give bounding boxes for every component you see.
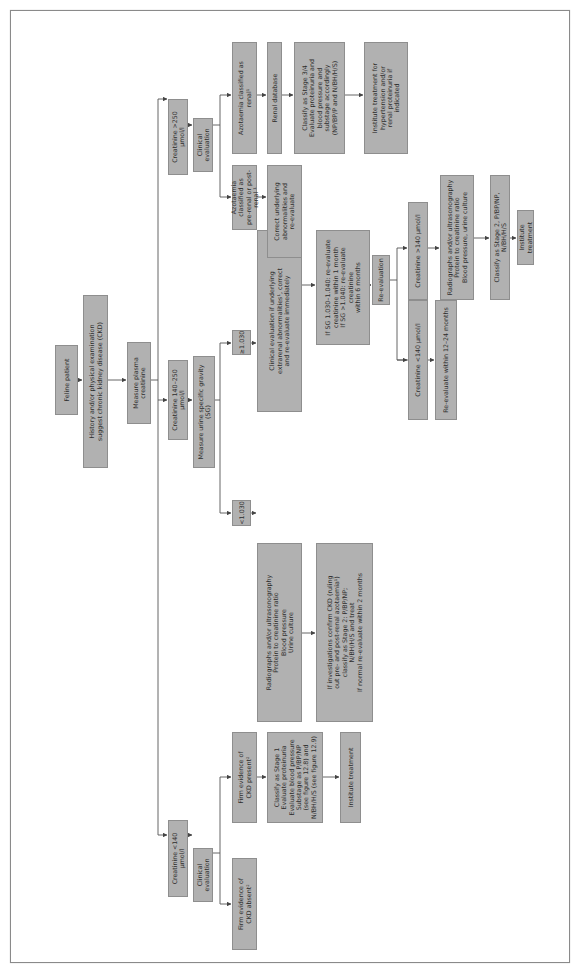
sg-reevaluate-node: If SG 1.030–1.040: re-evaluate creatinin… xyxy=(316,230,370,345)
institute-treatment-stage2-node: Institute treatment xyxy=(517,210,534,265)
history-node: History and/or physical examination sugg… xyxy=(83,295,108,468)
flowchart-connectors xyxy=(0,0,580,975)
azotaemia-prerenal-node: Azotaemia classified as pre-renal or pos… xyxy=(232,165,257,230)
institute-treatment-stage1-node: Institute treatment xyxy=(340,732,361,823)
feline-patient-node: Feline patient xyxy=(55,345,78,415)
correct-underlying-node: Correct underlying abnormalities and re-… xyxy=(267,165,302,258)
ckd-present-node: Firm evidence of CKD present² xyxy=(232,732,257,823)
classify-stage1-node: Classify as Stage 1 Evaluate proteinuria… xyxy=(267,732,323,823)
classify-stage34-node: Classify as Stage 3/4 Evaluate proteinur… xyxy=(294,42,345,154)
renal-database-node: Renal database xyxy=(267,42,282,154)
measure-creatinine-node: Measure plasma creatinine xyxy=(127,342,151,424)
sg-lt1030-node: <1.030 xyxy=(232,500,251,526)
sg-ge1030-node: ≥1.030 xyxy=(232,330,251,355)
institute-hypertension-node: Institute treatment for hypertension and… xyxy=(364,42,408,154)
radiographs-node: Radiographs and/or ultrasonography Prote… xyxy=(257,543,302,722)
radiographs-stage2-node: Radiographs and/or ultrasonography Prote… xyxy=(440,175,474,300)
clinical-evaluation-high-node: Clinical evaluation xyxy=(193,118,213,172)
re-evaluation-node: Re-evaluation xyxy=(372,255,390,305)
investigations-confirm-node: If investigations confirm CKD (ruling ou… xyxy=(316,543,373,722)
classify-stage2-node: Classify as Stage 2, P/BP/NP, N/BH/H/S xyxy=(490,175,510,300)
creatinine-140-250-node: Creatinine 140–250 µmol/l xyxy=(168,360,188,440)
clinical-evaluation-low-node: Clinical evaluation xyxy=(193,848,213,902)
measure-sg-node: Measure urine specific gravity (SG) xyxy=(193,356,215,468)
reevaluate-12-24-node: Re-evaluate within 12–24 months xyxy=(435,300,457,420)
recheck-creatinine-lt140-node: Creatinine <140 µmol/l xyxy=(408,300,428,420)
recheck-creatinine-gt140-node: Creatinine >140 µmol/l xyxy=(408,202,428,300)
creatinine-gt250-node: Creatinine >250 µmol/l xyxy=(168,99,188,175)
flowchart-canvas: Feline patient History and/or physical e… xyxy=(0,0,580,975)
azotaemia-renal-node: Azotaemia classified as renal¹ xyxy=(232,42,257,154)
creatinine-lt140-node: Creatinine <140 µmol/l xyxy=(168,820,188,897)
ckd-absent-node: Firm evidence of CKD absent² xyxy=(232,858,257,950)
